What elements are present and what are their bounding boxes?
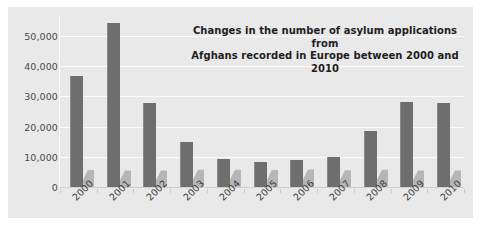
bar-rect-2001[interactable] [107, 23, 120, 187]
chart-title-line-1: Changes in the number of asylum applicat… [184, 25, 466, 50]
bar-2002[interactable] [143, 7, 156, 188]
bar-shadow-2001 [120, 23, 133, 187]
x-axis-tick [280, 189, 281, 193]
x-axis-labels: 2000200120022003200420052006200720082009… [60, 189, 464, 218]
y-axis-tick-label: 40,000 [10, 61, 58, 72]
bar-rect-2000[interactable] [70, 76, 83, 187]
bar-2000[interactable] [70, 7, 83, 188]
x-axis-tick [427, 189, 428, 193]
y-axis-tick-label: 10,000 [10, 151, 58, 162]
y-axis-tick-label: 30,000 [10, 91, 58, 102]
x-axis-tick [170, 189, 171, 193]
y-axis-tick-label: 0 [10, 182, 58, 193]
y-axis-labels: 010,00020,00030,00040,00050,000 [8, 7, 58, 188]
chart-container: 010,00020,00030,00040,00050,000 20002001… [8, 7, 473, 218]
bar-rect-2010[interactable] [437, 103, 450, 187]
bar-2001[interactable] [107, 7, 120, 188]
x-axis-tick [207, 189, 208, 193]
x-axis-tick [317, 189, 318, 193]
bar-rect-2008[interactable] [364, 131, 377, 187]
y-axis-tick-label: 50,000 [10, 31, 58, 42]
x-axis-tick [97, 189, 98, 193]
x-axis-tick [60, 189, 61, 193]
bar-shadow-2000 [83, 76, 96, 187]
bar-rect-2002[interactable] [143, 103, 156, 187]
bar-rect-2003[interactable] [180, 142, 193, 187]
bar-shadow-2002 [156, 103, 169, 187]
y-axis-tick-label: 20,000 [10, 121, 58, 132]
chart-title-line-2: Afghans recorded in Europe between 2000 … [184, 50, 466, 75]
bar-shadow-2009 [413, 102, 426, 187]
x-axis-tick [354, 189, 355, 193]
x-axis-tick [133, 189, 134, 193]
bar-shadow-2010 [450, 103, 463, 187]
x-axis-tick [464, 189, 465, 193]
x-axis-tick [391, 189, 392, 193]
chart-title: Changes in the number of asylum applicat… [184, 25, 466, 75]
bar-rect-2009[interactable] [400, 102, 413, 187]
x-axis-tick [244, 189, 245, 193]
